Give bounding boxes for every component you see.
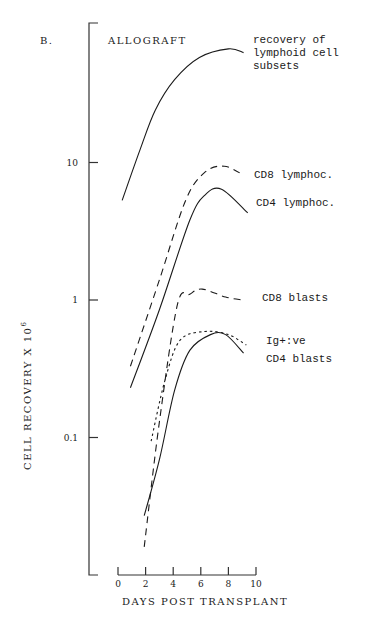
- subtitle-line-3: subsets: [253, 60, 299, 72]
- y-tick-label: 1: [72, 295, 78, 305]
- y-axis-label: CELL RECOVERY X 106: [20, 321, 33, 470]
- x-tick-label: 8: [226, 579, 232, 589]
- series-label-cd4-lymphoc: CD4 lymphoc.: [256, 197, 335, 209]
- y-axis: [89, 23, 98, 575]
- chart: B. ALLOGRAFT recovery of lymphoid cell s…: [0, 0, 388, 617]
- y-tick-label: 0.1: [64, 433, 78, 443]
- x-tick-label: 4: [170, 579, 176, 589]
- series-line-cd4-lymphoc: [130, 188, 247, 388]
- y-ticks: 1010.1: [64, 158, 98, 443]
- series-line-ig-ve: [151, 331, 246, 441]
- series-label-cd4-blasts: CD4 blasts: [266, 353, 332, 365]
- series-line-total-lymphoid-cells: [122, 49, 243, 201]
- y-axis-label-text: CELL RECOVERY X 10: [22, 327, 33, 470]
- panel-label: B.: [40, 35, 54, 46]
- chart-title: ALLOGRAFT: [107, 35, 187, 46]
- y-tick-label: 10: [67, 158, 79, 168]
- series-line-cd8-lymphoc: [130, 166, 243, 366]
- series-label-ig-ve: Ig+:ve: [266, 335, 306, 347]
- x-tick-label: 0: [115, 579, 121, 589]
- subtitle-line-1: recovery of: [253, 34, 326, 46]
- x-tick-label: 10: [250, 579, 262, 589]
- series-label-cd8-lymphoc: CD8 lymphoc.: [254, 169, 333, 181]
- x-tick-label: 2: [143, 579, 149, 589]
- x-ticks: 0246810: [115, 567, 262, 589]
- series-label-cd8-blasts: CD8 blasts: [262, 292, 328, 304]
- subtitle-line-2: lymphoid cell: [253, 47, 339, 59]
- x-tick-label: 6: [198, 579, 204, 589]
- x-axis-label: DAYS POST TRANSPLANT: [122, 596, 288, 607]
- series-line-cd8-blasts: [144, 289, 242, 547]
- y-axis-label-exponent: 6: [20, 321, 28, 327]
- y-axis-label-group: CELL RECOVERY X 106: [20, 321, 33, 470]
- series-curves: [122, 49, 248, 547]
